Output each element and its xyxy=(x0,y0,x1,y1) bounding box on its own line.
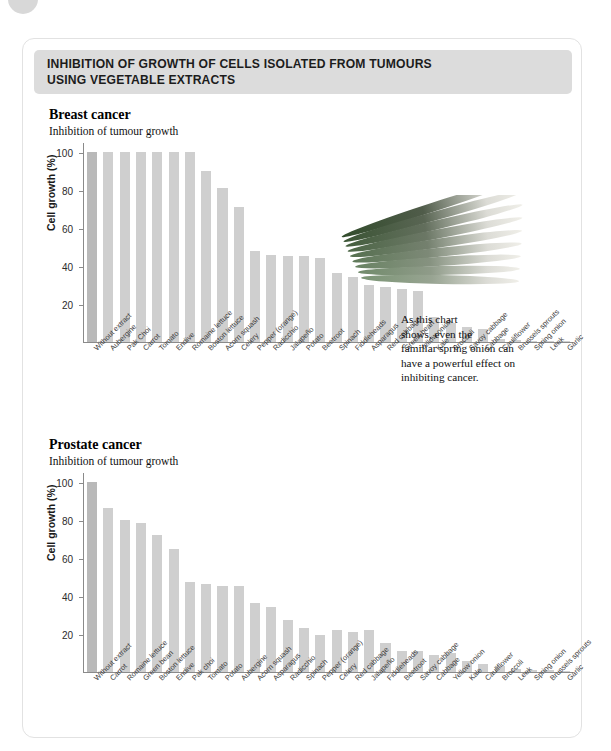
breast-chart-subtitle: Inhibition of tumour growth xyxy=(49,125,178,137)
y-tick-label: 40 xyxy=(62,261,73,272)
bar xyxy=(185,152,195,342)
title-banner: INHIBITION OF GROWTH OF CELLS ISOLATED F… xyxy=(34,50,572,94)
breast-chart-title: Breast cancer xyxy=(49,107,131,123)
bar xyxy=(152,152,162,342)
bar-slot xyxy=(198,473,214,672)
bar-slot xyxy=(84,473,100,672)
bar-slot xyxy=(247,473,263,672)
prostate-y-axis-label: Cell growth (%) xyxy=(45,485,57,561)
bar-slot xyxy=(214,473,230,672)
onion-stalk-shape xyxy=(361,273,519,285)
y-tick: 60 xyxy=(79,559,84,560)
breast-cancer-chart: Breast cancer Inhibition of tumour growt… xyxy=(23,107,583,427)
bar-slot xyxy=(426,473,442,672)
infographic-card: INHIBITION OF GROWTH OF CELLS ISOLATED F… xyxy=(22,38,582,738)
bar-slot xyxy=(100,143,116,342)
y-tick: 100 xyxy=(79,153,84,154)
bar-slot xyxy=(165,143,181,342)
y-tick: 20 xyxy=(79,635,84,636)
y-tick-label: 20 xyxy=(62,299,73,310)
bar-slot xyxy=(263,473,279,672)
y-tick: 40 xyxy=(79,597,84,598)
y-tick-label: 100 xyxy=(56,147,73,158)
bar-slot xyxy=(165,473,181,672)
y-tick-label: 80 xyxy=(62,515,73,526)
y-tick: 40 xyxy=(79,267,84,268)
bar-slot xyxy=(491,473,507,672)
bar-slot xyxy=(524,473,540,672)
bar xyxy=(201,171,211,342)
bar-slot xyxy=(540,473,556,672)
bar xyxy=(103,152,113,342)
y-tick-label: 60 xyxy=(62,553,73,564)
bar xyxy=(169,152,179,342)
breast-annotation-text: As this chart shows, even the familiar s… xyxy=(401,312,566,385)
y-tick: 20 xyxy=(79,305,84,306)
page-corner-dot xyxy=(8,0,38,14)
bar-slot xyxy=(394,473,410,672)
bar-slot xyxy=(475,473,491,672)
bar-slot xyxy=(508,473,524,672)
bar xyxy=(87,152,97,342)
bar-slot xyxy=(361,473,377,672)
bar-slot xyxy=(557,473,573,672)
bar xyxy=(136,523,146,672)
y-tick-label: 60 xyxy=(62,223,73,234)
bar-slot xyxy=(296,143,312,342)
bar-slot xyxy=(149,143,165,342)
bar xyxy=(87,482,97,672)
bar-slot xyxy=(198,143,214,342)
bar-slot xyxy=(296,473,312,672)
prostate-chart-title: Prostate cancer xyxy=(49,437,142,453)
bar-slot xyxy=(459,473,475,672)
y-tick: 80 xyxy=(79,191,84,192)
bar-slot xyxy=(312,143,328,342)
prostate-cancer-chart: Prostate cancer Inhibition of tumour gro… xyxy=(23,437,583,737)
y-tick-label: 80 xyxy=(62,185,73,196)
bar-slot xyxy=(84,143,100,342)
bar-slot xyxy=(182,143,198,342)
bar-slot xyxy=(133,473,149,672)
y-tick-label: 20 xyxy=(62,629,73,640)
bar-slot xyxy=(231,473,247,672)
prostate-chart-subtitle: Inhibition of tumour growth xyxy=(49,455,178,467)
spring-onion-photo xyxy=(333,195,578,315)
bar-slot xyxy=(377,473,393,672)
y-tick: 80 xyxy=(79,521,84,522)
bar-slot xyxy=(263,143,279,342)
bar xyxy=(315,258,325,342)
prostate-plot-area: Cell growth (%) 20406080100 Without extr… xyxy=(49,473,573,723)
banner-title: INHIBITION OF GROWTH OF CELLS ISOLATED F… xyxy=(47,56,506,88)
bar-slot xyxy=(100,473,116,672)
y-tick-label: 100 xyxy=(56,477,73,488)
y-tick-label: 40 xyxy=(62,591,73,602)
y-tick: 60 xyxy=(79,229,84,230)
bar-slot xyxy=(312,473,328,672)
bar xyxy=(136,152,146,342)
bar-slot xyxy=(410,473,426,672)
bar-slot xyxy=(133,143,149,342)
bar-slot xyxy=(247,143,263,342)
breast-y-axis-label: Cell growth (%) xyxy=(45,155,57,231)
bar xyxy=(103,508,113,672)
bar-slot xyxy=(280,473,296,672)
bar-slot xyxy=(328,473,344,672)
y-tick: 100 xyxy=(79,483,84,484)
bar xyxy=(234,586,244,672)
